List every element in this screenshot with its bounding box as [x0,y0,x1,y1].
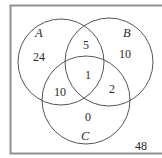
region-a-b-c: 1 [85,68,91,82]
region-b-and-c: 2 [109,82,115,96]
region-a-only: 24 [33,50,45,64]
set-label-a: A [34,26,43,40]
set-label-c: C [81,129,90,143]
region-b-only: 10 [119,47,131,61]
region-a-and-c: 10 [54,85,66,99]
set-label-b: B [123,26,131,40]
region-c-only: 0 [85,110,91,124]
region-a-and-b: 5 [83,38,89,52]
region-outside: 48 [135,139,147,153]
venn-diagram: A B C 24 5 10 1 10 2 0 48 [0,0,162,158]
